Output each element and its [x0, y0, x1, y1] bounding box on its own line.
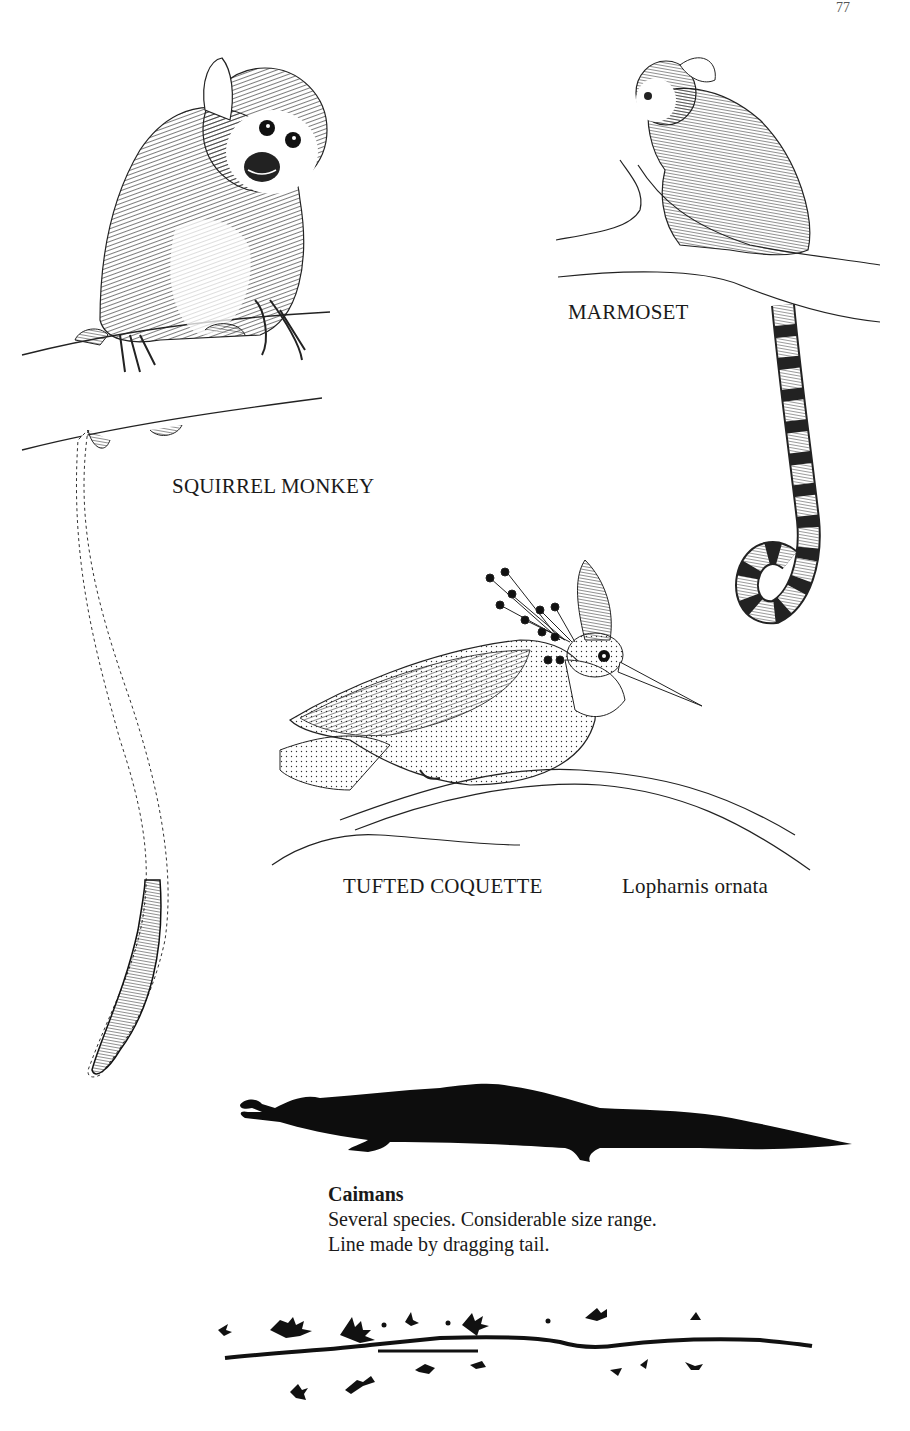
marmoset-illustration	[556, 58, 880, 612]
tufted-coquette-label: TUFTED COQUETTE	[343, 874, 543, 899]
marmoset-label: MARMOSET	[568, 300, 689, 325]
caiman-silhouette	[240, 1084, 852, 1162]
caiman-caption-line-2: Line made by dragging tail.	[328, 1232, 657, 1257]
caiman-caption-title: Caimans	[328, 1182, 657, 1207]
caiman-tracks	[218, 1308, 812, 1400]
squirrel-monkey-label: SQUIRREL MONKEY	[172, 474, 374, 499]
tufted-coquette-scientific-name: Lopharnis ornata	[622, 874, 768, 899]
squirrel-monkey-illustration	[22, 58, 330, 1077]
caiman-caption-line-1: Several species. Considerable size range…	[328, 1207, 657, 1232]
caiman-caption: Caimans Several species. Considerable si…	[328, 1182, 657, 1257]
tufted-coquette-illustration	[272, 560, 810, 870]
